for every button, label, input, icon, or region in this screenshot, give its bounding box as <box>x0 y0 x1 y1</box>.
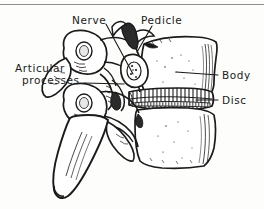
inferior-articular-process-lower <box>107 122 134 161</box>
upper-vertebral-body <box>141 37 217 96</box>
label-body: Body <box>222 69 251 81</box>
anatomy-figure: Nerve Pedicle Articular processes Body D… <box>0 0 264 209</box>
label-nerve: Nerve <box>72 14 106 26</box>
label-articular-processes-line2: processes <box>22 74 80 86</box>
label-articular-processes-line1: Articular <box>15 62 65 74</box>
lower-vertebral-body <box>135 108 216 169</box>
intervertebral-disc <box>129 88 214 110</box>
leader-articular <box>84 83 124 84</box>
page-top-rule <box>0 4 264 5</box>
spinous-process <box>53 115 108 198</box>
label-pedicle: Pedicle <box>141 14 182 26</box>
label-disc: Disc <box>222 94 247 106</box>
vertebra-illustration: Nerve Pedicle Articular processes Body D… <box>0 0 264 209</box>
